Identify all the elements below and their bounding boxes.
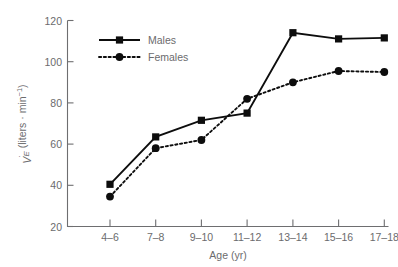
svg-text:V̇E (liters · min−1): V̇E (liters · min−1) [15,84,33,163]
x-tick-marks [110,220,384,227]
x-axis-tick-labels: 4–6 7–8 9–10 11–12 13–14 15–16 17–18 [101,231,398,243]
legend-item-males[interactable]: Males [99,34,176,46]
x-axis-title: Age (yr) [209,249,246,261]
males-marker[interactable] [289,29,296,36]
y-tick-label: 40 [50,179,62,191]
line-chart: 120 100 80 60 40 20 4–6 7–8 9–10 11–12 1… [0,0,398,267]
y-tick-label: 100 [44,56,62,68]
females-marker[interactable] [198,136,206,144]
females-marker[interactable] [152,144,160,152]
y-axis-title-close: ) [16,84,28,88]
legend-item-females[interactable]: Females [99,51,188,63]
legend-females-marker [116,53,124,61]
y-axis-title-rest: (liters · min [16,96,28,151]
females-marker[interactable] [243,95,251,103]
females-marker[interactable] [106,193,114,201]
legend-males-marker [116,36,123,43]
y-tick-label: 60 [50,138,62,150]
y-tick-marks [68,21,74,227]
axis-group [68,21,389,227]
y-tick-label: 120 [44,15,62,27]
x-tick-label: 4–6 [101,231,119,243]
x-tick-label: 15–16 [324,231,353,243]
males-marker[interactable] [335,35,342,42]
x-tick-label: 9–10 [190,231,214,243]
y-axis-title: V̇E (liters · min−1) [15,84,33,163]
y-tick-label: 80 [50,97,62,109]
chart-legend: Males Females [99,34,188,63]
y-axis-tick-labels: 120 100 80 60 40 20 [44,15,62,233]
females-marker[interactable] [335,67,343,75]
females-marker[interactable] [380,68,388,76]
males-marker[interactable] [244,110,251,117]
males-marker[interactable] [106,181,113,188]
legend-females-label: Females [148,51,188,63]
series-females [106,67,388,200]
x-tick-label: 7–8 [147,231,165,243]
males-marker[interactable] [198,117,205,124]
y-axis-title-exponent: −1 [15,88,24,97]
x-tick-label: 11–12 [233,231,262,243]
females-marker[interactable] [289,78,297,86]
y-tick-label: 20 [50,221,62,233]
axis-lines [68,21,389,227]
chart-container: 120 100 80 60 40 20 4–6 7–8 9–10 11–12 1… [0,0,398,267]
x-tick-label: 17–18 [370,231,398,243]
males-marker[interactable] [152,133,159,140]
legend-males-label: Males [148,34,176,46]
x-tick-label: 13–14 [278,231,307,243]
males-marker[interactable] [381,34,388,41]
females-line [110,71,384,197]
